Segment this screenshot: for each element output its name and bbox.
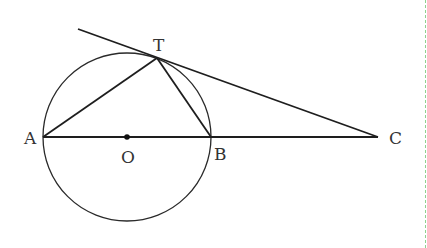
segment-at [43,58,157,137]
cut-off-caption: …… [18,240,58,248]
page-divider [425,0,426,248]
label-t: T [153,35,165,55]
label-c: C [389,128,402,148]
label-o: O [121,147,135,167]
center-point-o [124,134,130,140]
label-a: A [23,128,37,148]
geometry-diagram: T A O B C [0,0,427,248]
label-b: B [214,144,227,164]
tangent-line-tc [78,29,378,137]
segment-tb [157,58,211,137]
